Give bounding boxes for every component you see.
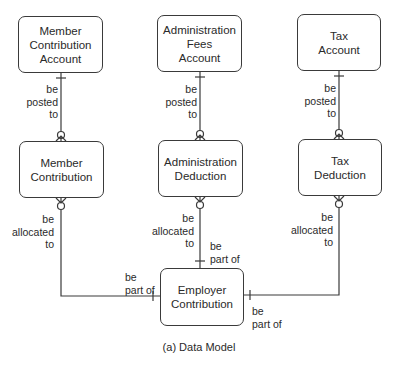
rel-label-ec-part-top: be part of: [210, 240, 240, 265]
entity-administration-deduction[interactable]: Administration Deduction: [158, 140, 243, 197]
rel-label-ec-part-right: be part of: [252, 305, 282, 330]
entity-label: Member Contribution: [30, 156, 92, 184]
entity-label: Employer Contribution: [171, 283, 233, 311]
entity-member-contribution-account[interactable]: Member Contribution Account: [18, 16, 103, 73]
entity-member-contribution[interactable]: Member Contribution: [19, 141, 104, 198]
rel-label-ad-allocated: be allocated to: [148, 212, 194, 250]
entity-label: Administration Fees Account: [163, 23, 236, 65]
rel-label-td-allocated: be allocated to: [287, 211, 333, 249]
entity-label: Member Contribution Account: [29, 24, 91, 66]
entity-employer-contribution[interactable]: Employer Contribution: [160, 268, 244, 326]
entity-tax-account[interactable]: Tax Account: [297, 14, 381, 71]
entity-tax-deduction[interactable]: Tax Deduction: [298, 139, 382, 196]
entity-label: Tax Account: [318, 29, 360, 57]
rel-label-mc-allocated: be allocated to: [8, 213, 54, 251]
figure-caption: (a) Data Model: [0, 341, 398, 353]
rel-label-afa-posted: be posted to: [163, 83, 197, 121]
rel-label-ec-part-left: be part of: [125, 271, 155, 296]
crows-foot-ad-bottom: [195, 197, 205, 202]
rel-label-ta-posted: be posted to: [302, 82, 336, 120]
entity-administration-fees-account[interactable]: Administration Fees Account: [157, 15, 242, 72]
crows-foot-td-bottom: [334, 196, 344, 201]
rel-label-mca-posted: be posted to: [24, 83, 58, 121]
entity-label: Tax Deduction: [314, 154, 366, 182]
entity-label: Administration Deduction: [164, 155, 237, 183]
crows-foot-mc-bottom: [56, 198, 66, 203]
